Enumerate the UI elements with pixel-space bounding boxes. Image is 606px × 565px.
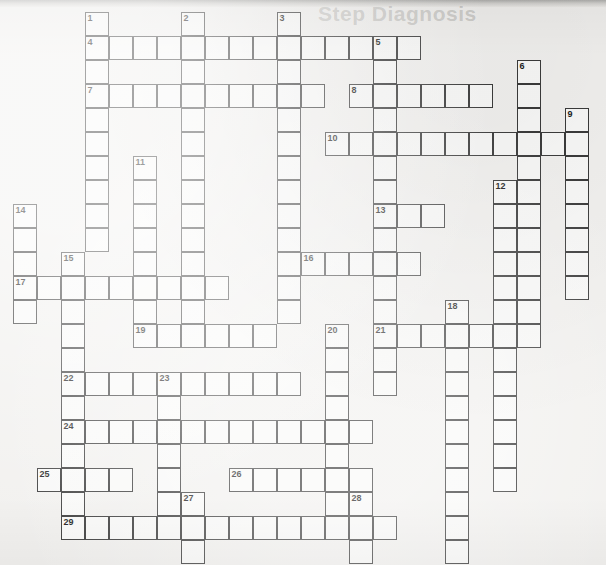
grid-cell-numbered-9[interactable]: 9 xyxy=(565,108,589,132)
grid-cell[interactable] xyxy=(469,84,493,108)
grid-cell[interactable] xyxy=(445,396,469,420)
grid-cell-numbered-21[interactable]: 21 xyxy=(373,324,397,348)
grid-cell-numbered-11[interactable]: 11 xyxy=(133,156,157,180)
grid-cell[interactable] xyxy=(469,324,493,348)
grid-cell[interactable] xyxy=(445,420,469,444)
grid-cell[interactable] xyxy=(373,84,397,108)
grid-cell[interactable] xyxy=(205,372,229,396)
grid-cell[interactable] xyxy=(181,300,205,324)
grid-cell-numbered-14[interactable]: 14 xyxy=(13,204,37,228)
grid-cell[interactable] xyxy=(517,156,541,180)
grid-cell[interactable] xyxy=(373,516,397,540)
grid-cell[interactable] xyxy=(301,516,325,540)
grid-cell[interactable] xyxy=(85,516,109,540)
grid-cell[interactable] xyxy=(205,36,229,60)
grid-cell-numbered-25[interactable]: 25 xyxy=(37,468,61,492)
grid-cell-numbered-22[interactable]: 22 xyxy=(61,372,85,396)
grid-cell-numbered-23[interactable]: 23 xyxy=(157,372,181,396)
grid-cell[interactable] xyxy=(133,84,157,108)
grid-cell[interactable] xyxy=(493,396,517,420)
grid-cell[interactable] xyxy=(349,252,373,276)
grid-cell[interactable] xyxy=(325,444,349,468)
grid-cell[interactable] xyxy=(421,132,445,156)
grid-cell[interactable] xyxy=(517,180,541,204)
grid-cell[interactable] xyxy=(493,204,517,228)
grid-cell[interactable] xyxy=(277,276,301,300)
grid-cell[interactable] xyxy=(85,228,109,252)
grid-cell[interactable] xyxy=(133,204,157,228)
grid-cell[interactable] xyxy=(301,420,325,444)
grid-cell[interactable] xyxy=(277,84,301,108)
grid-cell[interactable] xyxy=(517,132,541,156)
grid-cell[interactable] xyxy=(445,516,469,540)
grid-cell[interactable] xyxy=(181,540,205,564)
grid-cell[interactable] xyxy=(565,204,589,228)
grid-cell[interactable] xyxy=(229,372,253,396)
grid-cell[interactable] xyxy=(373,156,397,180)
grid-cell[interactable] xyxy=(397,324,421,348)
grid-cell[interactable] xyxy=(565,180,589,204)
grid-cell[interactable] xyxy=(421,324,445,348)
grid-cell[interactable] xyxy=(109,516,133,540)
grid-cell[interactable] xyxy=(517,324,541,348)
grid-cell-numbered-19[interactable]: 19 xyxy=(133,324,157,348)
grid-cell[interactable] xyxy=(517,84,541,108)
grid-cell[interactable] xyxy=(109,36,133,60)
grid-cell[interactable] xyxy=(325,36,349,60)
grid-cell[interactable] xyxy=(181,156,205,180)
grid-cell[interactable] xyxy=(61,444,85,468)
grid-cell[interactable] xyxy=(277,300,301,324)
grid-cell[interactable] xyxy=(13,252,37,276)
grid-cell[interactable] xyxy=(109,276,133,300)
grid-cell[interactable] xyxy=(325,252,349,276)
grid-cell-numbered-18[interactable]: 18 xyxy=(445,300,469,324)
grid-cell[interactable] xyxy=(61,324,85,348)
grid-cell[interactable] xyxy=(253,420,277,444)
grid-cell[interactable] xyxy=(157,324,181,348)
grid-cell[interactable] xyxy=(181,36,205,60)
grid-cell[interactable] xyxy=(541,132,565,156)
grid-cell-numbered-27[interactable]: 27 xyxy=(181,492,205,516)
grid-cell-numbered-26[interactable]: 26 xyxy=(229,468,253,492)
grid-cell[interactable] xyxy=(85,372,109,396)
grid-cell[interactable] xyxy=(565,228,589,252)
grid-cell[interactable] xyxy=(85,276,109,300)
grid-cell[interactable] xyxy=(205,420,229,444)
grid-cell[interactable] xyxy=(373,348,397,372)
grid-cell[interactable] xyxy=(277,180,301,204)
grid-cell[interactable] xyxy=(61,492,85,516)
grid-cell[interactable] xyxy=(133,252,157,276)
grid-cell[interactable] xyxy=(277,468,301,492)
grid-cell[interactable] xyxy=(85,468,109,492)
grid-cell[interactable] xyxy=(181,108,205,132)
grid-cell[interactable] xyxy=(349,516,373,540)
grid-cell[interactable] xyxy=(517,228,541,252)
grid-cell[interactable] xyxy=(181,84,205,108)
grid-cell[interactable] xyxy=(325,396,349,420)
grid-cell[interactable] xyxy=(157,492,181,516)
grid-cell[interactable] xyxy=(61,348,85,372)
grid-cell[interactable] xyxy=(109,84,133,108)
grid-cell[interactable] xyxy=(133,300,157,324)
grid-cell[interactable] xyxy=(421,204,445,228)
grid-cell[interactable] xyxy=(37,276,61,300)
grid-cell[interactable] xyxy=(181,516,205,540)
grid-cell[interactable] xyxy=(181,324,205,348)
grid-cell[interactable] xyxy=(85,132,109,156)
grid-cell-numbered-7[interactable]: 7 xyxy=(85,84,109,108)
grid-cell[interactable] xyxy=(373,60,397,84)
grid-cell[interactable] xyxy=(445,132,469,156)
grid-cell[interactable] xyxy=(301,84,325,108)
grid-cell[interactable] xyxy=(229,516,253,540)
grid-cell-numbered-15[interactable]: 15 xyxy=(61,252,85,276)
grid-cell[interactable] xyxy=(373,180,397,204)
grid-cell-numbered-16[interactable]: 16 xyxy=(301,252,325,276)
grid-cell[interactable] xyxy=(229,84,253,108)
grid-cell[interactable] xyxy=(373,300,397,324)
grid-cell-numbered-20[interactable]: 20 xyxy=(325,324,349,348)
grid-cell[interactable] xyxy=(445,324,469,348)
grid-cell[interactable] xyxy=(277,132,301,156)
grid-cell[interactable] xyxy=(277,420,301,444)
grid-cell[interactable] xyxy=(277,108,301,132)
grid-cell[interactable] xyxy=(181,372,205,396)
